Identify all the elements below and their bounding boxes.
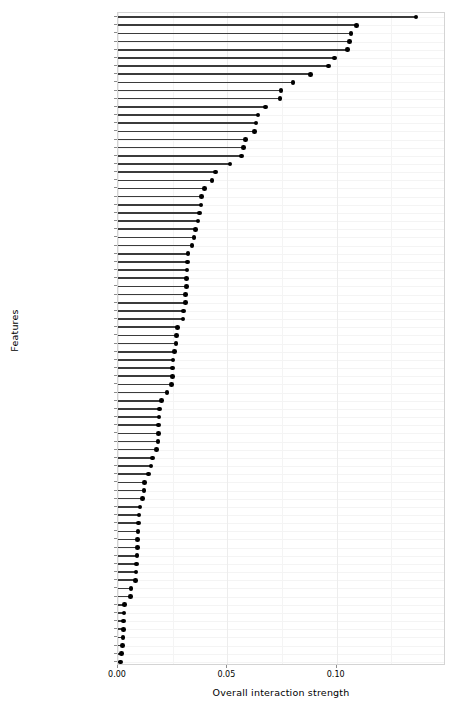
lollipop-dot[interactable]	[243, 137, 248, 142]
lollipop-dot[interactable]	[347, 39, 352, 44]
lollipop-dot[interactable]	[135, 553, 140, 558]
lollipop-dot[interactable]	[159, 398, 164, 403]
lollipop-stem	[118, 24, 357, 26]
lollipop-dot[interactable]	[157, 415, 162, 420]
lollipop-dot[interactable]	[150, 456, 155, 461]
lollipop-dot[interactable]	[170, 366, 175, 371]
lollipop-dot[interactable]	[157, 407, 162, 412]
lollipop-dot[interactable]	[118, 660, 123, 665]
lollipop-dot[interactable]	[134, 570, 139, 575]
lollipop-dot[interactable]	[279, 88, 284, 93]
lollipop-stem	[118, 180, 212, 182]
lollipop-dot[interactable]	[183, 292, 188, 297]
lollipop-dot[interactable]	[181, 317, 186, 322]
lollipop-dot[interactable]	[121, 619, 126, 624]
lollipop-stem	[118, 65, 329, 67]
lollipop-dot[interactable]	[213, 170, 218, 175]
lollipop-row	[118, 413, 445, 421]
lollipop-dot[interactable]	[308, 72, 313, 77]
lollipop-dot[interactable]	[140, 496, 145, 501]
lollipop-row	[118, 315, 445, 323]
lollipop-dot[interactable]	[121, 627, 126, 632]
lollipop-stem	[118, 326, 177, 328]
lollipop-row	[118, 193, 445, 201]
lollipop-dot[interactable]	[196, 219, 201, 224]
lollipop-dot[interactable]	[138, 505, 143, 510]
lollipop-stem	[118, 82, 293, 84]
lollipop-dot[interactable]	[192, 235, 197, 240]
lollipop-dot[interactable]	[414, 15, 419, 20]
lollipop-dot[interactable]	[263, 105, 268, 110]
lollipop-dot[interactable]	[129, 586, 134, 591]
lollipop-dot[interactable]	[199, 194, 204, 199]
lollipop-dot[interactable]	[120, 643, 125, 648]
lollipop-dot[interactable]	[172, 349, 177, 354]
lollipop-row	[118, 78, 445, 86]
lollipop-dot[interactable]	[122, 602, 127, 607]
lollipop-row	[118, 625, 445, 633]
lollipop-dot[interactable]	[202, 186, 207, 191]
lollipop-stem	[118, 57, 334, 59]
lollipop-dot[interactable]	[119, 651, 124, 656]
lollipop-row	[118, 160, 445, 168]
lollipop-row	[118, 372, 445, 380]
lollipop-dot[interactable]	[174, 341, 179, 346]
lollipop-dot[interactable]	[254, 121, 259, 126]
lollipop-dot[interactable]	[185, 268, 190, 273]
lollipop-dot[interactable]	[174, 333, 179, 338]
lollipop-dot[interactable]	[128, 594, 133, 599]
lollipop-dot[interactable]	[156, 431, 161, 436]
lollipop-dot[interactable]	[190, 243, 195, 248]
lollipop-dot[interactable]	[136, 529, 141, 534]
lollipop-dot[interactable]	[175, 325, 180, 330]
lollipop-dot[interactable]	[239, 154, 244, 159]
lollipop-dot[interactable]	[170, 374, 175, 379]
lollipop-dot[interactable]	[146, 472, 151, 477]
lollipop-dot[interactable]	[184, 276, 189, 281]
lollipop-dot[interactable]	[133, 578, 138, 583]
lollipop-dot[interactable]	[228, 162, 233, 167]
lollipop-row	[118, 168, 445, 176]
lollipop-dot[interactable]	[183, 300, 188, 305]
lollipop-dot[interactable]	[184, 284, 189, 289]
lollipop-dot[interactable]	[210, 178, 215, 183]
lollipop-dot[interactable]	[241, 145, 246, 150]
lollipop-dot[interactable]	[156, 423, 161, 428]
lollipop-dot[interactable]	[278, 96, 283, 101]
lollipop-dot[interactable]	[197, 211, 202, 216]
lollipop-stem	[118, 473, 149, 475]
lollipop-dot[interactable]	[165, 390, 170, 395]
lollipop-dot[interactable]	[291, 80, 296, 85]
lollipop-dot[interactable]	[354, 23, 359, 28]
lollipop-dot[interactable]	[169, 382, 174, 387]
lollipop-dot[interactable]	[171, 358, 176, 363]
lollipop-dot[interactable]	[135, 545, 140, 550]
lollipop-dot[interactable]	[256, 113, 261, 118]
lollipop-dot[interactable]	[149, 464, 154, 469]
lollipop-dot[interactable]	[135, 537, 140, 542]
lollipop-dot[interactable]	[122, 611, 127, 616]
lollipop-dot[interactable]	[137, 513, 142, 518]
lollipop-dot[interactable]	[121, 635, 126, 640]
lollipop-dot[interactable]	[136, 521, 141, 526]
lollipop-dot[interactable]	[326, 64, 331, 69]
lollipop-row	[118, 331, 445, 339]
lollipop-dot[interactable]	[142, 488, 147, 493]
lollipop-dot[interactable]	[154, 447, 159, 452]
lollipop-stem	[118, 400, 162, 402]
lollipop-dot[interactable]	[156, 439, 161, 444]
lollipop-stem	[118, 204, 201, 206]
lollipop-dot[interactable]	[349, 31, 354, 36]
lollipop-dot[interactable]	[193, 227, 198, 232]
lollipop-dot[interactable]	[185, 260, 190, 265]
lollipop-row	[118, 446, 445, 454]
lollipop-dot[interactable]	[345, 47, 350, 52]
lollipop-dot[interactable]	[332, 56, 337, 61]
lollipop-dot[interactable]	[142, 480, 147, 485]
lollipop-dot[interactable]	[186, 251, 191, 256]
lollipop-dot[interactable]	[252, 129, 257, 134]
lollipop-dot[interactable]	[199, 203, 204, 208]
lollipop-dot[interactable]	[134, 562, 139, 567]
lollipop-dot[interactable]	[181, 309, 186, 314]
lollipop-row	[118, 258, 445, 266]
